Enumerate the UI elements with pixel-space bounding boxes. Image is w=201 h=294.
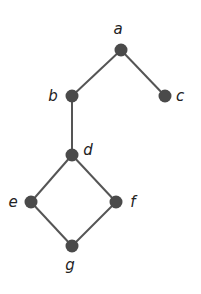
node-label-d: d bbox=[83, 141, 93, 159]
node-label-b: b bbox=[48, 87, 58, 105]
node-d bbox=[66, 149, 79, 162]
labels: abcdefg bbox=[8, 20, 184, 274]
node-e bbox=[25, 196, 38, 209]
edge-e-g bbox=[31, 202, 72, 246]
node-a bbox=[115, 44, 128, 57]
node-b bbox=[66, 90, 79, 103]
hasse-diagram: abcdefg bbox=[0, 0, 201, 294]
node-c bbox=[159, 90, 172, 103]
edge-d-f bbox=[72, 155, 116, 202]
node-f bbox=[110, 196, 123, 209]
edge-a-c bbox=[121, 50, 165, 96]
edges bbox=[31, 50, 165, 246]
edge-a-b bbox=[72, 50, 121, 96]
node-label-c: c bbox=[176, 87, 185, 105]
edge-d-e bbox=[31, 155, 72, 202]
node-label-f: f bbox=[130, 193, 138, 211]
node-label-e: e bbox=[8, 193, 17, 211]
node-label-a: a bbox=[113, 20, 122, 38]
node-label-g: g bbox=[65, 256, 75, 274]
node-g bbox=[66, 240, 79, 253]
edge-f-g bbox=[72, 202, 116, 246]
